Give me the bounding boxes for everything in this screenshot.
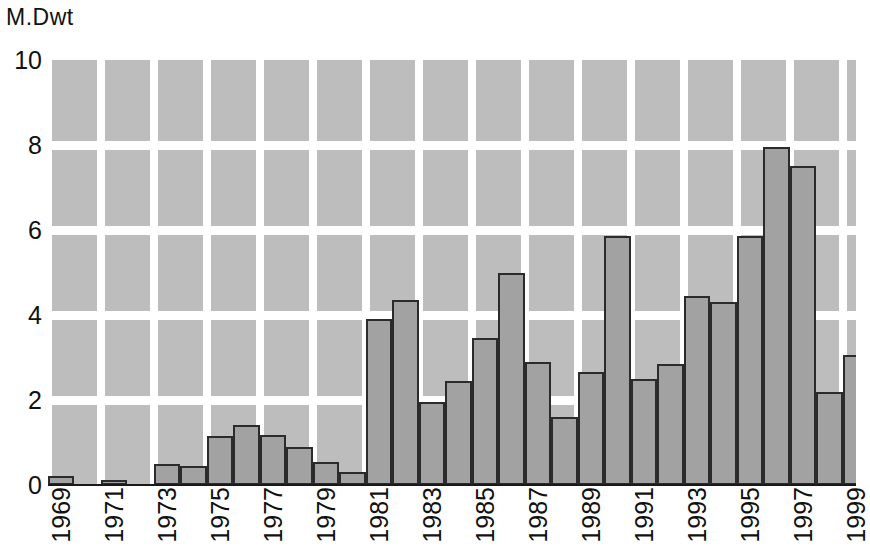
x-axis-tick-label: 1997	[790, 487, 816, 550]
bar	[472, 338, 498, 485]
x-axis-baseline	[48, 484, 856, 486]
y-axis-tick-label: 2	[2, 388, 42, 413]
bar	[816, 392, 842, 486]
x-axis-tick-label: 1975	[207, 487, 233, 550]
bar	[578, 372, 604, 485]
x-axis-tick-label: 1993	[684, 487, 710, 550]
bar	[154, 464, 180, 485]
x-axis-tick-label: 1981	[366, 487, 392, 550]
bar	[180, 466, 206, 485]
y-axis-tick-label: 10	[2, 48, 42, 73]
y-axis-tick-label: 8	[2, 133, 42, 158]
x-axis-tick-label: 1989	[578, 487, 604, 550]
y-axis-tick-labels: 0246810	[0, 0, 42, 550]
bar	[525, 362, 551, 485]
x-axis-tick-label: 1995	[737, 487, 763, 550]
bar	[763, 147, 789, 485]
plot-area	[48, 60, 856, 485]
x-axis-tick-label: 1991	[631, 487, 657, 550]
bar	[286, 447, 312, 485]
bar	[604, 236, 630, 485]
x-axis-tick-label: 1969	[48, 487, 74, 550]
bar	[657, 364, 683, 485]
bar	[737, 236, 763, 485]
bar	[843, 355, 856, 485]
bar	[684, 296, 710, 485]
bar	[233, 425, 259, 485]
bar	[631, 379, 657, 485]
bar	[260, 435, 286, 485]
bar	[207, 436, 233, 485]
x-axis-tick-label: 1977	[260, 487, 286, 550]
x-axis-tick-label: 1983	[419, 487, 445, 550]
bar	[551, 417, 577, 485]
y-axis-tick-label: 0	[2, 473, 42, 498]
x-axis-tick-label: 1985	[472, 487, 498, 550]
x-axis-tick-label: 1999	[843, 487, 869, 550]
bar	[790, 166, 816, 485]
bars-layer	[48, 60, 856, 485]
x-axis-tick-labels: 1969197119731975197719791981198319851987…	[48, 487, 856, 550]
bar	[313, 462, 339, 485]
bar	[366, 319, 392, 485]
bar	[445, 381, 471, 485]
y-axis-tick-label: 4	[2, 303, 42, 328]
bar	[498, 273, 524, 486]
bar	[419, 402, 445, 485]
x-axis-tick-label: 1987	[525, 487, 551, 550]
bar	[392, 300, 418, 485]
y-axis-tick-label: 6	[2, 218, 42, 243]
x-axis-tick-label: 1979	[313, 487, 339, 550]
x-axis-tick-label: 1971	[101, 487, 127, 550]
bar	[710, 302, 736, 485]
x-axis-tick-label: 1973	[154, 487, 180, 550]
